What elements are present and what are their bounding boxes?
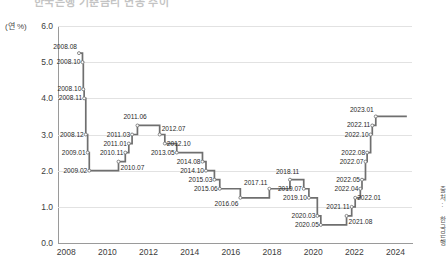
page-title: 한국은행 기준금리 변동 추이	[34, 0, 169, 9]
x-axis-tick-label: 2022	[345, 247, 364, 257]
data-point-callout: 2011.06	[123, 114, 146, 121]
data-point-callout: 2010.11	[100, 150, 123, 157]
y-axis-tick-label: 5.0	[41, 57, 53, 67]
data-point-marker	[268, 187, 271, 190]
source-note: 출처: 한국은행	[437, 186, 447, 246]
data-point-marker	[201, 160, 204, 163]
x-axis-tick-label: 2008	[57, 247, 76, 257]
data-point-callout: 2021.11	[326, 204, 349, 211]
data-point-callout: 2022.05	[336, 177, 360, 184]
x-axis-tick-label: 2012	[139, 247, 158, 257]
data-point-marker	[175, 151, 178, 154]
data-point-marker	[158, 133, 161, 136]
data-point-callout: 2019.10	[283, 195, 307, 202]
data-point-marker	[117, 160, 120, 163]
data-point-callout: 2010.07	[121, 165, 145, 172]
x-axis-tick-label: 2018	[263, 247, 282, 257]
data-point-marker	[81, 61, 84, 64]
data-point-callout: 2011.03	[107, 132, 130, 139]
x-axis-tick-label: 2016	[221, 247, 240, 257]
data-point-marker	[204, 169, 207, 172]
x-axis-line	[58, 243, 413, 244]
data-point-marker	[307, 196, 310, 199]
data-point-callout: 2019.07	[278, 186, 302, 193]
data-point-callout: 2012.10	[167, 141, 191, 148]
data-point-marker	[366, 151, 369, 154]
chart-container: 한국은행 기준금리 변동 추이 (연 %) 6.05.04.03.02.01.0…	[0, 0, 448, 271]
x-axis-tick-label: 2010	[98, 247, 117, 257]
data-point-marker	[86, 151, 89, 154]
y-axis-tick-label: 2.0	[41, 166, 53, 176]
data-point-callout: 2022.10	[345, 132, 369, 139]
data-point-callout: 2021.08	[349, 219, 373, 226]
data-point-callout: 2014.08	[177, 159, 201, 166]
data-point-callout: 2011.01	[103, 141, 126, 148]
data-point-callout: 2008.12	[60, 132, 84, 139]
data-point-marker	[131, 133, 134, 136]
data-point-marker	[360, 178, 363, 181]
data-point-callout: 2008.10	[57, 59, 81, 66]
data-point-marker	[136, 124, 139, 127]
data-point-marker	[124, 151, 127, 154]
data-point-marker	[302, 187, 305, 190]
data-point-marker	[319, 223, 322, 226]
data-point-marker	[77, 52, 80, 55]
data-point-marker	[218, 187, 221, 190]
data-point-callout: 2009.02	[63, 168, 87, 175]
data-point-callout: 2022.11	[347, 122, 370, 129]
data-point-marker	[345, 214, 348, 217]
data-point-marker	[288, 178, 291, 181]
data-point-callout: 2022.01	[357, 195, 381, 202]
data-point-marker	[359, 187, 362, 190]
data-point-marker	[371, 124, 374, 127]
data-point-callout: 2015.06	[194, 186, 218, 193]
data-point-marker	[83, 97, 86, 100]
data-point-callout: 2020.05	[295, 222, 319, 229]
data-point-callout: 2022.04	[335, 186, 359, 193]
data-point-callout: 2018.11	[276, 169, 299, 176]
data-point-callout: 2015.03	[189, 177, 213, 184]
data-point-callout: 2020.03	[291, 213, 315, 220]
data-point-marker	[82, 88, 85, 91]
data-point-callout: 2022.07	[340, 159, 364, 166]
data-point-marker	[213, 178, 216, 181]
plot-area: 6.05.04.03.02.01.00.0 2008.082008.102008…	[58, 26, 412, 243]
y-axis-unit-label: (연 %)	[5, 20, 27, 31]
y-axis-tick-label: 3.0	[41, 130, 53, 140]
data-point-callout: 2008.10	[57, 86, 81, 93]
y-axis-tick-label: 0.0	[41, 238, 53, 248]
data-point-callout: 2017.11	[244, 180, 267, 187]
x-axis-tick-label: 2020	[304, 247, 323, 257]
data-point-callout: 2022.08	[341, 150, 365, 157]
data-point-callout: 2008.08	[53, 44, 77, 51]
data-point-marker	[127, 142, 130, 145]
data-point-callout: 2013.05	[151, 150, 175, 157]
data-point-callout: 2016.06	[215, 201, 239, 208]
x-axis-tick-label: 2024	[386, 247, 405, 257]
data-point-callout: 2008.11	[59, 95, 82, 102]
data-point-marker	[88, 169, 91, 172]
data-point-marker	[369, 133, 372, 136]
data-point-marker	[374, 115, 377, 118]
data-point-callout: 2014.10	[180, 168, 204, 175]
data-point-marker	[316, 214, 319, 217]
y-axis-tick-label: 1.0	[41, 202, 53, 212]
data-point-marker	[84, 133, 87, 136]
y-axis-tick-label: 4.0	[41, 93, 53, 103]
data-point-callout: 2023.01	[350, 107, 374, 114]
x-axis-tick-label: 2014	[180, 247, 199, 257]
y-axis-tick-label: 6.0	[41, 21, 53, 31]
data-point-marker	[350, 205, 353, 208]
data-point-callout: 2009.01	[62, 150, 86, 157]
data-point-marker	[239, 196, 242, 199]
data-point-callout: 2012.07	[162, 126, 186, 133]
data-point-marker	[364, 160, 367, 163]
